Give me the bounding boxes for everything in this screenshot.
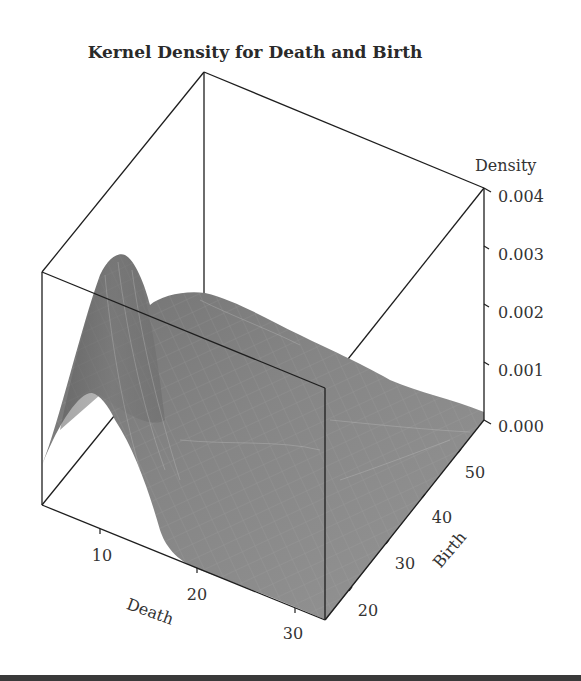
y-axis-label: Birth: [429, 528, 470, 572]
density-surface-chart: Kernel Density for Death and Birth: [0, 0, 581, 681]
z-axis-label: Density: [475, 156, 536, 175]
z-tick-label: 0.000: [498, 417, 544, 436]
z-tick-label: 0.003: [498, 245, 544, 264]
density-surface: [42, 254, 484, 620]
chart-title: Kernel Density for Death and Birth: [88, 42, 423, 62]
z-tick-label: 0.002: [498, 303, 544, 322]
x-tick-label: 20: [187, 585, 207, 604]
x-tick-label: 30: [283, 624, 303, 643]
x-axis-label: Death: [124, 594, 176, 628]
x-tick-label: 10: [92, 546, 112, 565]
z-axis: Density 0.004 0.003 0.002 0.001 0.000: [475, 156, 544, 436]
z-tick-label: 0.004: [498, 187, 544, 206]
z-tick-label: 0.001: [498, 361, 544, 380]
bottom-border-bar: [0, 675, 581, 681]
y-tick-label: 30: [395, 554, 415, 573]
y-tick-label: 40: [432, 508, 452, 527]
y-tick-label: 50: [465, 463, 485, 482]
y-tick-label: 20: [358, 601, 378, 620]
